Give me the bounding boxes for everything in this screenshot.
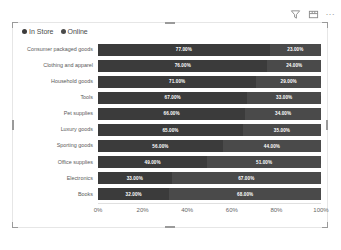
category-label: Books [21,192,98,197]
bar-segment-online[interactable]: 44.00% [223,140,321,152]
legend-item-online[interactable]: Online [61,28,88,35]
x-axis-line [98,203,321,204]
bar-track: 33.00%67.00% [98,172,321,184]
bar-segment-in-store[interactable]: 71.00% [98,76,256,88]
resize-handle-right[interactable] [326,120,328,130]
bar-value-label: 49.00% [145,160,161,165]
bar-value-label: 24.00% [286,63,302,68]
bar-segment-online[interactable]: 24.00% [267,60,321,72]
bar-segment-in-store[interactable]: 76.00% [98,60,267,72]
bar-value-label: 67.00% [165,95,181,100]
resize-handle-left[interactable] [12,120,14,130]
bar-segment-in-store[interactable]: 77.00% [98,44,270,56]
bar-rows: Consumer packaged goods77.00%23.00%Cloth… [21,43,321,201]
chart-legend: In StoreOnline [22,28,88,35]
bar-row[interactable]: Sporting goods56.00%44.00% [21,140,321,153]
bar-value-label: 35.00% [274,128,290,133]
bar-segment-in-store[interactable]: 65.00% [98,124,243,136]
x-axis-tick-label: 60% [226,207,238,213]
bar-row[interactable]: Luxury goods65.00%35.00% [21,124,321,137]
bar-segment-online[interactable]: 67.00% [172,172,321,184]
bar-segment-online[interactable]: 23.00% [270,44,321,56]
bar-segment-online[interactable]: 34.00% [245,108,321,120]
category-label: Pet supplies [21,111,98,116]
bar-value-label: 33.00% [127,176,143,181]
bar-track: 76.00%24.00% [98,60,321,72]
bar-row[interactable]: Tools67.00%33.00% [21,91,321,104]
bar-segment-in-store[interactable]: 49.00% [98,156,207,168]
x-axis: 0%20%40%60%80%100% [98,203,321,221]
legend-item-in-store[interactable]: In Store [22,28,54,35]
bar-segment-in-store[interactable]: 66.00% [98,108,245,120]
plot-area: Consumer packaged goods77.00%23.00%Cloth… [21,43,321,221]
resize-handle-top[interactable] [165,22,175,24]
bar-segment-online[interactable]: 33.00% [247,92,321,104]
category-label: Household goods [21,79,98,84]
bar-value-label: 71.00% [169,79,185,84]
bar-row[interactable]: Clothing and apparel76.00%24.00% [21,59,321,72]
resize-handle-bottom[interactable] [165,226,175,228]
resize-handle-top-right-v[interactable] [327,22,328,28]
bar-track: 67.00%33.00% [98,92,321,104]
more-options-icon[interactable]: ... [326,10,335,19]
bar-track: 65.00%35.00% [98,124,321,136]
x-axis-tick-label: 100% [313,207,328,213]
bar-value-label: 32.00% [126,192,142,197]
bar-segment-in-store[interactable]: 33.00% [98,172,172,184]
bar-value-label: 76.00% [175,63,191,68]
bar-value-label: 34.00% [275,111,291,116]
stacked-bar-chart-visual[interactable]: In StoreOnline Consumer packaged goods77… [12,22,328,228]
legend-swatch-icon [22,29,27,34]
category-label: Electronics [21,176,98,181]
bar-value-label: 23.00% [287,47,303,52]
bar-track: 71.00%29.00% [98,76,321,88]
bar-row[interactable]: Household goods71.00%29.00% [21,75,321,88]
legend-label: In Store [29,28,54,35]
bar-row[interactable]: Consumer packaged goods77.00%23.00% [21,43,321,56]
bar-track: 66.00%34.00% [98,108,321,120]
bar-track: 32.00%68.00% [98,188,321,200]
legend-label: Online [68,28,88,35]
focus-mode-icon[interactable] [308,9,319,20]
bar-segment-in-store[interactable]: 32.00% [98,188,169,200]
bar-value-label: 29.00% [281,79,297,84]
bar-row[interactable]: Office supplies49.00%51.00% [21,156,321,169]
category-label: Clothing and apparel [21,63,98,68]
bar-segment-in-store[interactable]: 56.00% [98,140,223,152]
visual-header-icons: ... [290,7,335,21]
bar-value-label: 66.00% [163,111,179,116]
category-label: Consumer packaged goods [21,47,98,52]
bar-segment-online[interactable]: 29.00% [256,76,321,88]
category-label: Office supplies [21,160,98,165]
bar-segment-online[interactable]: 68.00% [169,188,321,200]
bar-value-label: 65.00% [162,128,178,133]
bar-segment-online[interactable]: 35.00% [243,124,321,136]
legend-swatch-icon [61,29,66,34]
bar-value-label: 56.00% [152,144,168,149]
bar-value-label: 51.00% [256,160,272,165]
bar-value-label: 67.00% [238,176,254,181]
resize-handle-bottom-right-v[interactable] [327,222,328,228]
bar-value-label: 68.00% [237,192,253,197]
resize-handle-bottom-left-v[interactable] [12,222,13,228]
x-axis-tick-label: 80% [270,207,282,213]
bar-track: 77.00%23.00% [98,44,321,56]
bar-row[interactable]: Books32.00%68.00% [21,188,321,201]
x-axis-tick-label: 40% [181,207,193,213]
x-axis-tick-label: 20% [137,207,149,213]
x-axis-tick-label: 0% [94,207,103,213]
x-axis-ticks: 0%20%40%60%80%100% [98,207,321,217]
resize-handle-top-left-v[interactable] [12,22,13,28]
bar-row[interactable]: Pet supplies66.00%34.00% [21,107,321,120]
bar-segment-online[interactable]: 51.00% [207,156,321,168]
category-label: Luxury goods [21,127,98,132]
category-label: Sporting goods [21,143,98,148]
bar-row[interactable]: Electronics33.00%67.00% [21,172,321,185]
bar-value-label: 77.00% [176,47,192,52]
bar-track: 56.00%44.00% [98,140,321,152]
category-label: Tools [21,95,98,100]
bar-value-label: 44.00% [264,144,280,149]
bar-value-label: 33.00% [276,95,292,100]
bar-segment-in-store[interactable]: 67.00% [98,92,247,104]
filter-icon[interactable] [290,9,301,20]
